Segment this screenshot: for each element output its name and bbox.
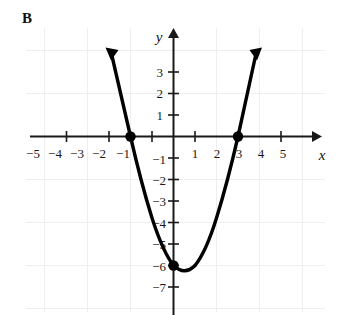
x-tick-label: −3 <box>70 146 84 161</box>
x-tick-label: −1 <box>116 146 130 161</box>
x-axis-arrowhead <box>312 131 322 142</box>
y-tick-label: −3 <box>152 194 166 209</box>
x-tick-label: −4 <box>48 146 62 161</box>
y-axis-label: y <box>154 29 163 45</box>
y-axis-arrowhead <box>168 28 179 38</box>
x-tick-label: −5 <box>26 146 40 161</box>
y-intercept-point <box>168 260 178 270</box>
marked-points <box>125 131 243 270</box>
y-tick-label: −2 <box>152 173 166 188</box>
x-intercept-right-point <box>233 131 243 141</box>
parabola-graph: −5 −4 −3 −2 −1 1 2 3 4 5 3 2 1 −1 −2 −3 … <box>0 0 339 315</box>
parabola-right-branch <box>195 56 256 266</box>
x-tick-label: 5 <box>280 146 287 161</box>
figure-panel: B <box>0 0 339 315</box>
y-tick-label: −6 <box>152 259 166 274</box>
y-tick-label: 2 <box>157 86 164 101</box>
x-tick-label: −2 <box>92 146 106 161</box>
x-tick-label: 2 <box>214 146 221 161</box>
x-tick-label: 4 <box>258 146 265 161</box>
y-tick-label: 3 <box>157 65 164 80</box>
x-axis-label: x <box>318 147 326 163</box>
curve-right-arrowhead <box>250 48 263 61</box>
axes <box>30 28 322 315</box>
y-tick-label: −1 <box>152 152 166 167</box>
x-tick-label: 1 <box>192 146 199 161</box>
x-intercept-left-point <box>125 131 135 141</box>
curve-left-arrowhead <box>106 48 119 61</box>
y-tick-label: −7 <box>152 280 166 295</box>
y-tick-label: 1 <box>157 108 164 123</box>
y-tick-labels: 3 2 1 −1 −2 −3 −4 −5 −6 −7 <box>152 65 166 295</box>
